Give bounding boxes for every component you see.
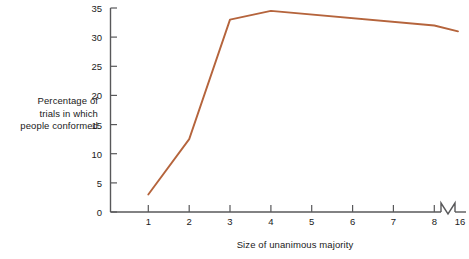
y-tick-label-0: 0 xyxy=(78,207,102,218)
y-tick-label-10: 10 xyxy=(78,148,102,159)
x-tick-label-5: 5 xyxy=(309,216,314,227)
x-tick-label-16: 16 xyxy=(455,216,466,227)
x-tick-label-4: 4 xyxy=(268,216,273,227)
x-axis-ticks xyxy=(148,205,434,212)
y-axis-title-line-1: Percentage of xyxy=(2,95,98,108)
x-axis-title: Size of unanimous majority xyxy=(150,239,440,250)
y-axis-title-line-3: people conformed xyxy=(2,120,98,133)
x-axis-break-zigzag xyxy=(441,203,455,214)
x-tick-label-3: 3 xyxy=(227,216,232,227)
y-tick-label-35: 35 xyxy=(78,3,102,14)
x-tick-label-6: 6 xyxy=(350,216,355,227)
y-tick-label-30: 30 xyxy=(78,32,102,43)
y-axis-title: Percentage of trials in which people con… xyxy=(2,95,98,133)
y-axis-title-line-2: trials in which xyxy=(2,108,98,121)
y-tick-label-25: 25 xyxy=(78,61,102,72)
x-tick-label-8: 8 xyxy=(432,216,437,227)
y-tick-label-5: 5 xyxy=(78,177,102,188)
y-axis-ticks xyxy=(111,8,118,212)
data-series-line xyxy=(148,11,458,195)
x-tick-label-1: 1 xyxy=(146,216,151,227)
x-tick-label-7: 7 xyxy=(391,216,396,227)
chart-container: 0 5 10 15 20 25 30 35 1 2 3 4 5 6 7 8 16… xyxy=(0,0,469,259)
x-tick-label-2: 2 xyxy=(187,216,192,227)
